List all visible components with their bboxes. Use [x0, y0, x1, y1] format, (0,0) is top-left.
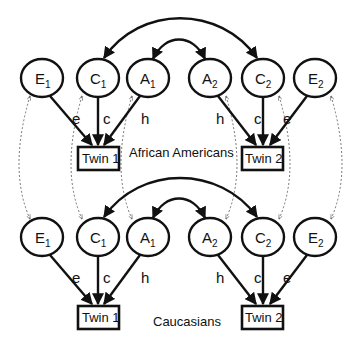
svg-text:Twin 2: Twin 2	[245, 151, 283, 166]
path-label-e: e	[283, 110, 291, 127]
path-label-c: c	[103, 269, 111, 286]
latent-C1: C1	[77, 218, 119, 256]
latent-E1: E1	[21, 218, 63, 256]
correlation-arc-a1-a2	[153, 40, 205, 60]
latent-C2: C2	[242, 218, 284, 256]
svg-text:Twin 2: Twin 2	[245, 310, 283, 325]
path-label-h: h	[141, 269, 149, 286]
twin1-box: Twin 1	[78, 147, 120, 170]
twin2-box: Twin 2	[242, 306, 283, 329]
dotted-link-E2	[331, 96, 342, 219]
path-label-e: e	[72, 110, 80, 127]
latent-E2: E2	[294, 59, 336, 97]
group-label: Caucasians	[153, 314, 221, 329]
latent-C2: C2	[242, 59, 284, 97]
path-label-h: h	[141, 110, 149, 127]
path-e1-twin1	[50, 96, 92, 145]
correlation-arc-a1-a2	[153, 199, 205, 219]
path-label-c: c	[254, 110, 262, 127]
twin1-box: Twin 1	[78, 306, 120, 329]
latent-A1: A1	[127, 218, 169, 256]
path-label-h: h	[216, 110, 224, 127]
path-label-c: c	[254, 269, 262, 286]
path-label-e: e	[72, 269, 80, 286]
latent-A2: A2	[189, 59, 231, 97]
latent-A2: A2	[189, 218, 231, 256]
path-e1-twin1	[50, 255, 92, 304]
path-label-c: c	[103, 110, 111, 127]
latent-E1: E1	[21, 59, 63, 97]
latent-A1: A1	[127, 59, 169, 97]
svg-text:Twin 1: Twin 1	[82, 310, 120, 325]
svg-text:Twin 1: Twin 1	[82, 151, 120, 166]
path-label-e: e	[283, 269, 291, 286]
ace-twin-model-diagram: E1 C1 A1 A2 C2 E2 e c h h c e	[0, 0, 356, 342]
twin2-box: Twin 2	[242, 147, 283, 170]
latent-C1: C1	[77, 59, 119, 97]
path-label-h: h	[216, 269, 224, 286]
group-label: African Americans	[129, 145, 234, 160]
latent-E2: E2	[294, 218, 336, 256]
dotted-link-E1	[19, 96, 30, 219]
group-african-americans: E1 C1 A1 A2 C2 E2 e c h h c e	[21, 18, 336, 170]
correlation-arc-c1-c2	[104, 18, 257, 58]
group-caucasians: E1 C1 A1 A2 C2 E2 e c h h c e Twin 1	[21, 178, 336, 329]
